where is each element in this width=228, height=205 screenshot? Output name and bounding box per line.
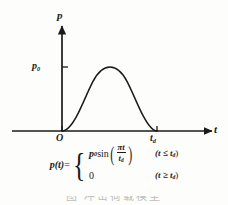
case2-condition: (t ≥ td) [155, 170, 178, 180]
x-tick-label-td: td [150, 133, 156, 144]
case1-fraction-numerator: πt [116, 143, 127, 152]
y-tick-label-subscript: 0 [37, 65, 40, 72]
x-axis-label: t [214, 124, 217, 135]
case2-condition-close: ) [175, 170, 178, 180]
piecewise-formula: p(t)= { p0sin(πttd) (t ≤ td) 0 (t ≥ td) [0, 146, 228, 183]
formula-cases-list: p0sin(πttd) (t ≤ td) 0 (t ≥ td) [89, 146, 178, 183]
case1-condition-close: ) [175, 148, 178, 158]
case1-fraction: πttd [116, 143, 127, 163]
figure-container: p t p0 O td p(t)= { p0sin(πttd) (t ≤ td)… [0, 0, 228, 205]
curly-brace-icon: { [73, 151, 85, 179]
case1-fraction-denominator: td [117, 152, 126, 163]
x-tick-label-subscript: d [153, 137, 156, 144]
y-axis-label: p [57, 10, 63, 21]
formula-equals-sign: = [64, 159, 70, 170]
case1-condition-text: (t ≤ t [155, 148, 172, 158]
case1-sin-function: sin [97, 148, 109, 159]
case2-condition-text: (t ≥ t [155, 170, 172, 180]
origin-label: O [56, 133, 63, 143]
case1-denominator-subscript: d [121, 157, 124, 163]
formula-function-name: p(t) [50, 159, 64, 170]
y-tick-label-p0: p0 [32, 61, 40, 72]
case1-paren-close: ) [128, 147, 132, 161]
figure-caption-strip: 图 冲击荷载模型 [0, 196, 228, 205]
formula-case-row: p0sin(πttd) (t ≤ td) [89, 146, 178, 161]
case2-expression: 0 [89, 170, 149, 181]
figure-caption: 图 冲击荷载模型 [0, 196, 228, 203]
formula-left-hand-side: p(t)= [50, 159, 70, 170]
sine-pulse-curve [62, 67, 157, 131]
case1-paren-open: ( [110, 147, 114, 161]
case1-expression: p0sin(πttd) [89, 143, 149, 163]
case1-condition: (t ≤ td) [155, 148, 178, 158]
formula-case-row: 0 (t ≥ td) [89, 168, 178, 183]
